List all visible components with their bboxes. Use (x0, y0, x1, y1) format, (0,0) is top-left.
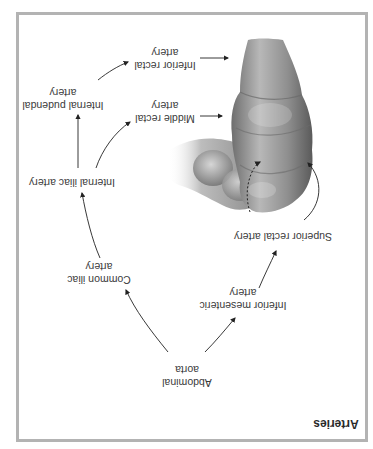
label-line: aorta (162, 363, 212, 376)
label-common-iliac-artery: Common iliac artery (67, 260, 131, 286)
label-line: Abdominal (162, 376, 212, 389)
label-line: Superior rectal artery (234, 230, 332, 243)
label-abdominal-aorta: Abdominal aorta (162, 363, 212, 389)
label-line: Internal pudendal (22, 99, 103, 112)
label-line: Inferior mesenteric (200, 299, 287, 312)
label-line: artery (134, 46, 195, 59)
label-line: artery (67, 260, 131, 273)
label-middle-rectal-artery: Middle rectal artery (135, 99, 195, 125)
label-internal-iliac-artery: Internal iliac artery (29, 176, 115, 189)
label-superior-rectal-artery: Superior rectal artery (234, 230, 332, 243)
label-line: Middle rectal (135, 112, 195, 125)
label-line: artery (135, 99, 195, 112)
label-line: Inferior rectal (134, 59, 195, 72)
label-internal-pudendal-artery: Internal pudendal artery (22, 86, 103, 112)
label-line: artery (200, 286, 287, 299)
label-inferior-rectal-artery: Inferior rectal artery (134, 46, 195, 72)
label-line: artery (22, 86, 103, 99)
label-line: Internal iliac artery (29, 176, 115, 189)
figure-title: Arteries (313, 417, 358, 431)
label-inferior-mesenteric-artery: Inferior mesenteric artery (200, 286, 287, 312)
label-line: Common iliac (67, 273, 131, 286)
